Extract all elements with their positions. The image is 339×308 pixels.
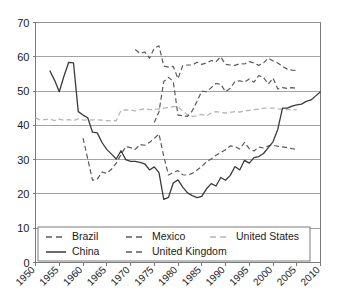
y-tick-label: 50 xyxy=(17,85,29,97)
legend-label: United States xyxy=(236,230,299,242)
y-tick-label: 10 xyxy=(17,222,29,234)
legend-label: United Kingdom xyxy=(152,245,227,257)
x-tick-label: 1995 xyxy=(227,264,251,288)
y-tick-label: 70 xyxy=(17,17,29,29)
series-line-united-kingdom xyxy=(154,76,297,123)
line-chart: 010203040506070 195019551960196519701975… xyxy=(0,0,339,308)
y-tick-label: 20 xyxy=(17,188,29,200)
x-tick-label: 1990 xyxy=(203,264,227,288)
legend: BrazilMexicoUnited StatesChinaUnited Kin… xyxy=(38,227,310,261)
x-tick-label: 1970 xyxy=(108,264,132,288)
x-tick-label: 1955 xyxy=(37,264,61,288)
x-tick-label: 1975 xyxy=(132,264,156,288)
y-tick-label: 40 xyxy=(17,119,29,131)
x-tick-label: 1985 xyxy=(180,264,204,288)
legend-label: Mexico xyxy=(152,230,185,242)
y-tick-label: 60 xyxy=(17,51,29,63)
y-tick-label: 30 xyxy=(17,154,29,166)
chart-container: 010203040506070 195019551960196519701975… xyxy=(0,0,339,308)
ytick-labels-group: 010203040506070 xyxy=(17,17,35,269)
axes-group xyxy=(36,23,321,263)
legend-label: Brazil xyxy=(72,230,98,242)
series-group xyxy=(36,46,321,200)
x-tick-label: 1980 xyxy=(156,264,180,288)
x-tick-label: 2005 xyxy=(275,264,299,288)
x-tick-label: 2000 xyxy=(251,264,275,288)
series-line-united-states xyxy=(36,107,297,121)
legend-label: China xyxy=(72,245,100,257)
x-tick-label: 1960 xyxy=(61,264,85,288)
gridlines-group xyxy=(36,23,321,229)
xtick-labels-group: 1950195519601965197019751980198519901995… xyxy=(13,263,322,288)
x-tick-label: 2010 xyxy=(298,264,322,288)
x-tick-label: 1950 xyxy=(13,264,37,288)
series-line-china xyxy=(50,62,321,199)
x-tick-label: 1965 xyxy=(85,264,109,288)
series-line-brazil xyxy=(135,46,297,79)
